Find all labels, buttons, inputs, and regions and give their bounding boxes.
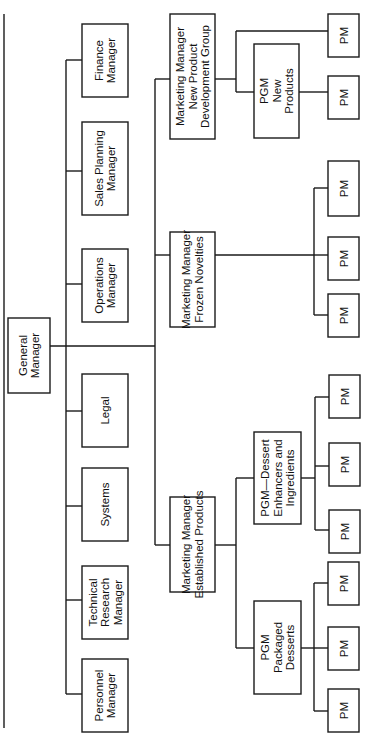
pm-box-label: PM bbox=[338, 180, 350, 197]
pm-box-label: PM bbox=[338, 250, 350, 267]
pm-box: PM bbox=[328, 562, 359, 605]
pm-box-label: PM bbox=[339, 523, 351, 540]
legal-box-label: Legal bbox=[99, 396, 111, 424]
pm-box-label-line: PM bbox=[339, 456, 351, 473]
general-manager-box-label-line: Manager bbox=[29, 333, 41, 379]
pm-box: PM bbox=[329, 510, 360, 553]
finance-manager-box-label: FinanceManager bbox=[93, 38, 118, 84]
pm-box-label: PM bbox=[338, 89, 350, 106]
finance-manager-box-label-line: Finance bbox=[93, 40, 105, 81]
operations-manager-box-label-line: Manager bbox=[105, 263, 117, 309]
mm-new-product-development-box: Marketing ManagerNew ProductDevelopment … bbox=[170, 14, 215, 139]
pgm-packaged-desserts-box-label-line: Desserts bbox=[284, 625, 296, 671]
pm-box-label-line: PM bbox=[339, 523, 351, 540]
mm-established-products-box-label-line: Marketing Manager bbox=[180, 495, 192, 594]
pm-box: PM bbox=[328, 161, 359, 216]
pm-box-label-line: PM bbox=[338, 640, 350, 657]
operations-manager-box: OperationsManager bbox=[82, 249, 128, 322]
pm-box-label-line: PM bbox=[338, 702, 350, 719]
general-manager-box-label: GeneralManager bbox=[17, 333, 42, 379]
pgm-packaged-desserts-box-label-line: PGM bbox=[259, 634, 271, 660]
general-manager-box: GeneralManager bbox=[8, 318, 50, 393]
mm-new-product-development-box-label-line: New Product bbox=[187, 43, 199, 110]
technical-research-manager-box-label-line: Technical bbox=[87, 579, 99, 627]
pgm-dessert-enhancers-box-label-line: PGM—Dessert bbox=[259, 439, 271, 517]
general-manager-box-label-line: General bbox=[17, 335, 29, 376]
pm-box-label-line: PM bbox=[338, 307, 350, 324]
pgm-dessert-enhancers-box: PGM—DessertEnhancers andIngredients bbox=[254, 432, 301, 524]
pm-box-label: PM bbox=[338, 575, 350, 592]
mm-new-product-development-box-label-line: Marketing Manager bbox=[174, 27, 186, 126]
personnel-manager-box-label-line: Personnel bbox=[93, 670, 105, 722]
pgm-packaged-desserts-box: PGMPackagedDesserts bbox=[254, 601, 301, 694]
technical-research-manager-box-label: TechnicalResearchManager bbox=[87, 578, 124, 627]
pm-box: PM bbox=[328, 689, 359, 732]
personnel-manager-box-label-line: Manager bbox=[105, 673, 117, 719]
mm-frozen-novelties-box-label-line: Frozen Novelties bbox=[193, 236, 205, 323]
pm-box-label: PM bbox=[339, 388, 351, 405]
operations-manager-box-label: OperationsManager bbox=[93, 257, 118, 314]
mm-new-product-development-box-label-line: Development Group bbox=[199, 25, 211, 128]
pm-box-label: PM bbox=[338, 640, 350, 657]
org-chart: GeneralManagerFinanceManagerSales Planni… bbox=[0, 0, 376, 738]
legal-box-label-line: Legal bbox=[99, 396, 111, 424]
pgm-new-products-box-label-line: Products bbox=[283, 68, 295, 114]
technical-research-manager-box-label-line: Research bbox=[99, 578, 111, 627]
pgm-new-products-box: PGMNewProducts bbox=[254, 44, 299, 138]
pgm-dessert-enhancers-box-label-line: Ingredients bbox=[284, 449, 296, 506]
pm-box: PM bbox=[328, 627, 359, 670]
technical-research-manager-box: TechnicalResearchManager bbox=[82, 566, 128, 639]
pgm-new-products-box-label-line: New bbox=[271, 79, 283, 103]
mm-established-products-box: Marketing ManagerEstablished Products bbox=[170, 490, 215, 598]
technical-research-manager-box-label-line: Manager bbox=[112, 580, 124, 626]
systems-box-label-line: Systems bbox=[99, 482, 111, 526]
pm-box-label: PM bbox=[338, 27, 350, 44]
sales-planning-manager-box-label-line: Manager bbox=[105, 146, 117, 192]
mm-frozen-novelties-box-label-line: Marketing Manager bbox=[180, 230, 192, 329]
mm-frozen-novelties-box: Marketing ManagerFrozen Novelties bbox=[170, 230, 215, 329]
personnel-manager-box: PersonnelManager bbox=[82, 659, 128, 732]
pm-box-label: PM bbox=[338, 702, 350, 719]
pgm-dessert-enhancers-box-label-line: Enhancers and bbox=[272, 439, 284, 516]
legal-box: Legal bbox=[82, 374, 128, 447]
pm-box-label-line: PM bbox=[338, 89, 350, 106]
finance-manager-box-label-line: Manager bbox=[105, 38, 117, 84]
pm-box-label: PM bbox=[339, 456, 351, 473]
mm-established-products-box-label: Marketing ManagerEstablished Products bbox=[180, 490, 205, 598]
pgm-dessert-enhancers-box-label: PGM—DessertEnhancers andIngredients bbox=[259, 439, 296, 517]
pm-box-label: PM bbox=[338, 307, 350, 324]
pm-box: PM bbox=[328, 237, 359, 280]
sales-planning-manager-box: Sales PlanningManager bbox=[82, 122, 128, 215]
pm-box: PM bbox=[328, 294, 359, 337]
pgm-packaged-desserts-box-label-line: Packaged bbox=[272, 622, 284, 673]
pm-box: PM bbox=[329, 375, 360, 418]
finance-manager-box: FinanceManager bbox=[82, 24, 128, 97]
sales-planning-manager-box-label-line: Sales Planning bbox=[93, 130, 105, 207]
mm-established-products-box-label-line: Established Products bbox=[193, 490, 205, 598]
pm-box: PM bbox=[328, 14, 359, 57]
systems-box-label: Systems bbox=[99, 482, 111, 526]
pm-box-label-line: PM bbox=[338, 575, 350, 592]
personnel-manager-box-label: PersonnelManager bbox=[93, 670, 118, 722]
pm-box-label-line: PM bbox=[338, 250, 350, 267]
pm-box: PM bbox=[328, 76, 359, 119]
systems-box: Systems bbox=[82, 468, 128, 541]
org-boxes: GeneralManagerFinanceManagerSales Planni… bbox=[8, 14, 360, 732]
pm-box-label-line: PM bbox=[338, 180, 350, 197]
pm-box: PM bbox=[329, 443, 360, 486]
operations-manager-box-label-line: Operations bbox=[93, 257, 105, 314]
mm-frozen-novelties-box-label: Marketing ManagerFrozen Novelties bbox=[180, 230, 205, 329]
pm-box-label-line: PM bbox=[339, 388, 351, 405]
pm-box-label-line: PM bbox=[338, 27, 350, 44]
pgm-new-products-box-label-line: PGM bbox=[258, 78, 270, 104]
